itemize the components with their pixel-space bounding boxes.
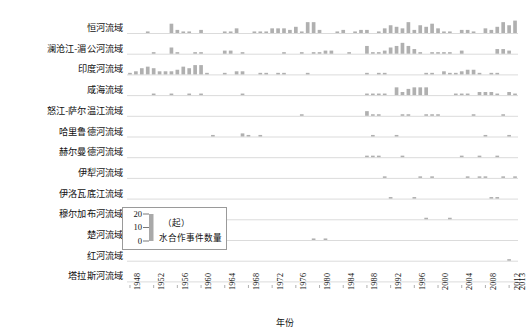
bar [424,73,428,75]
bar [383,94,387,96]
bar [318,52,322,54]
bar [412,49,416,54]
bar [181,67,185,75]
bar [306,22,310,33]
bar [164,71,168,74]
bar [495,94,499,96]
bar [448,31,452,33]
bar [424,27,428,33]
bar [412,87,416,95]
bar [401,92,405,95]
bar [377,114,381,116]
bar [466,176,470,178]
bar [276,73,280,75]
bar [424,87,428,95]
bar [300,52,304,54]
bar [312,22,316,33]
bar [294,27,298,33]
bar [264,73,268,75]
bar [241,133,245,136]
bar [365,30,369,33]
bar [430,176,434,178]
x-tick-1988: 1988 [370,273,379,290]
bar [401,43,405,54]
bar [513,94,517,96]
bar [264,31,268,33]
bar [365,156,369,158]
bar [466,30,470,33]
bar [460,51,464,54]
bar [407,46,411,54]
bar [158,71,162,74]
bar [365,73,369,75]
bar [181,31,185,33]
bar [140,68,144,74]
bar [282,28,286,33]
bar [365,46,369,54]
bar [424,218,428,220]
bar [359,30,363,33]
bar [258,135,262,137]
bar [507,92,511,95]
bar [424,114,428,116]
bar [193,52,197,54]
x-tick-1948: 1948 [133,273,142,290]
legend-series-label: 水合作事件数量 [159,231,222,243]
bar [276,28,280,33]
bar [187,94,191,96]
bar [495,73,499,75]
x-tick-1968: 1968 [252,273,261,290]
bar [412,197,416,199]
bar [229,31,233,33]
bar [205,73,209,75]
x-tick-1996: 1996 [418,273,427,290]
bar [495,197,499,199]
bar [223,31,227,33]
bar [484,135,488,137]
bar [371,156,375,158]
bar [152,94,156,96]
bar [430,73,434,75]
bar [377,94,381,96]
bar [401,156,405,158]
bar [335,31,339,33]
x-tick-1984: 1984 [347,273,356,290]
bar [229,51,233,54]
bar [365,111,369,116]
bar [187,68,191,74]
bar [258,73,262,75]
bar [418,25,422,33]
bar [253,31,257,33]
legend-unit-label: （起） [163,216,190,228]
bar [383,73,387,75]
bar [300,31,304,33]
bar [300,114,304,116]
x-tick-2000: 2000 [441,273,450,290]
bar [377,156,381,158]
bar [418,52,422,54]
bar [176,70,180,75]
bar [258,31,262,33]
bar [401,28,405,33]
bar [484,92,488,95]
bar [152,52,156,54]
bar [247,135,251,137]
bar [389,25,393,33]
bar [442,71,446,74]
bar [193,65,197,74]
bar [507,259,511,261]
bar [199,30,203,33]
bar [241,94,245,96]
bar [407,22,411,33]
bar [460,156,464,158]
bar [412,30,416,33]
bar [472,31,476,33]
bar [454,94,458,96]
bar [430,114,434,116]
bar [389,197,393,199]
bar [223,51,227,54]
bar [199,94,203,96]
bar [501,49,505,54]
bar [495,27,499,33]
